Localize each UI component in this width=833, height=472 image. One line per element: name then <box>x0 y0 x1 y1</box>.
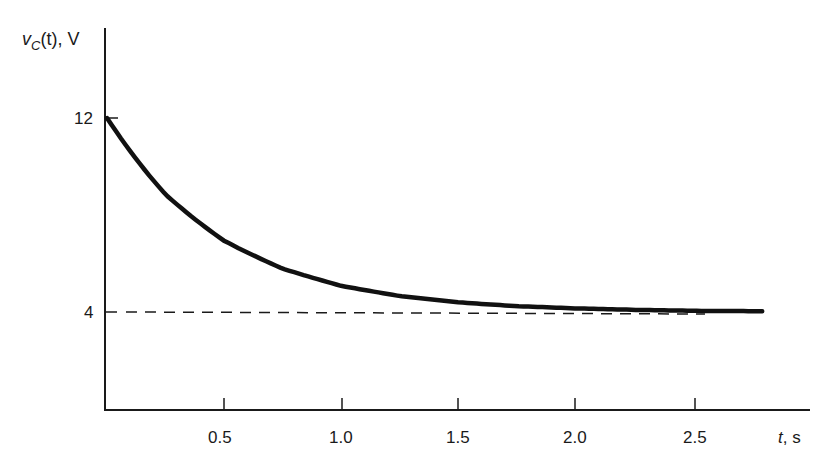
y-tick-label-12: 12 <box>74 110 93 127</box>
x-tick-label-1.0: 1.0 <box>329 429 353 446</box>
asymptote-line <box>126 312 705 314</box>
y-tick-label-4: 4 <box>84 304 93 321</box>
x-tick-label-2.0: 2.0 <box>563 429 587 446</box>
x-tick-label-0.5: 0.5 <box>208 429 232 446</box>
y-axis-label: vC(t), V <box>22 30 79 52</box>
x-tick-label-1.5: 1.5 <box>446 429 470 446</box>
x-axis-label: t, s <box>778 429 801 446</box>
voltage-curve <box>107 118 762 311</box>
x-tick-label-2.5: 2.5 <box>683 429 707 446</box>
chart-canvas <box>0 0 833 472</box>
